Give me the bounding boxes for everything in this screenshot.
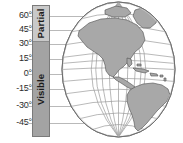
visibility-segment-visible: Visible	[33, 42, 49, 136]
land-lesser-antilles	[164, 78, 166, 81]
land-bahamas	[137, 64, 141, 66]
earth-visibility-latitude-diagram: 60°45°30°15°0°-15°-30°-45° Partial Visib…	[0, 0, 183, 143]
visibility-segment-partial: Partial	[33, 6, 49, 42]
visibility-segment-partial-label: Partial	[36, 9, 47, 39]
visibility-bar: Partial Visible	[32, 5, 50, 137]
visibility-segment-visible-label: Visible	[36, 73, 47, 104]
earth-globe	[61, 1, 176, 138]
land-puerto-rico	[160, 75, 163, 77]
